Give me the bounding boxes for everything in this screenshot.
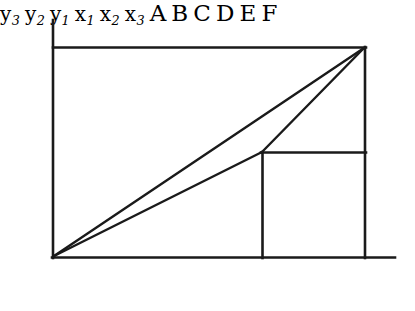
geometry-figure: y3 y2 y1 x1 x2 x3 A B C D E F <box>0 0 415 311</box>
segment-bc <box>262 48 364 152</box>
segment-ab <box>54 152 262 256</box>
diagram-canvas <box>0 0 415 311</box>
